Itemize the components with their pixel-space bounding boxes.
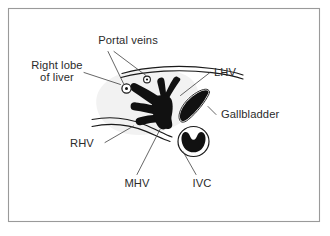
anatomy-figure: Portal veins Right lobe of liver LHV Gal… bbox=[0, 0, 330, 236]
label-right-lobe-line2: of liver bbox=[40, 71, 74, 83]
label-ivc: IVC bbox=[193, 177, 212, 189]
label-lhv: LHV bbox=[214, 66, 237, 78]
anatomy-diagram-canvas: Portal veins Right lobe of liver LHV Gal… bbox=[0, 0, 330, 236]
label-right-lobe-line1: Right lobe bbox=[31, 59, 82, 71]
label-rhv: RHV bbox=[70, 137, 94, 149]
label-portal-veins: Portal veins bbox=[98, 34, 158, 46]
inferior-vena-cava-shape bbox=[178, 127, 209, 157]
label-gallbladder: Gallbladder bbox=[221, 108, 279, 120]
label-mhv: MHV bbox=[124, 177, 150, 189]
